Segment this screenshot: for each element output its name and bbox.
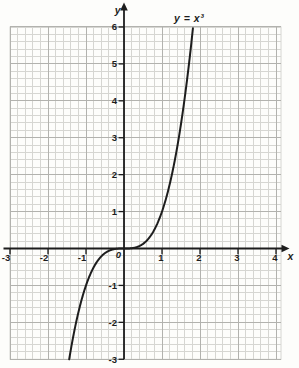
minor-gridlines: [10, 27, 281, 359]
y-tick-label: 2: [112, 169, 117, 180]
x-tick-label: -1: [78, 252, 86, 263]
y-axis-letter: y: [115, 4, 121, 16]
plot-canvas: [0, 0, 299, 368]
y-tick-label: 3: [112, 132, 117, 143]
y-tick-label: 4: [112, 95, 117, 106]
x-tick-label: -3: [2, 252, 10, 263]
equation-label: y = x³: [174, 12, 204, 24]
axis-tick-marks: [10, 27, 276, 359]
major-gridlines: [10, 27, 281, 359]
y-tick-label: -3: [109, 354, 117, 365]
x-tick-label: 3: [234, 252, 239, 263]
y-tick-label: 5: [112, 58, 117, 69]
y-axis-arrowhead: [120, 3, 128, 11]
x-tick-label: 4: [272, 252, 277, 263]
curve-path: [69, 28, 193, 359]
y-tick-label: -2: [109, 317, 117, 328]
cubic-curve: [69, 28, 193, 359]
x-axis-letter: x: [288, 250, 294, 262]
y-tick-label: 1: [112, 206, 117, 217]
origin-label: 0: [116, 249, 121, 260]
graph-figure: y y = x³ x 0 -3-2-11234-3-2-1123456: [0, 0, 299, 368]
x-tick-label: -2: [40, 252, 48, 263]
y-tick-label: -1: [109, 280, 117, 291]
x-tick-label: 1: [158, 252, 163, 263]
grid-border: [10, 27, 281, 359]
y-tick-label: 6: [112, 21, 117, 32]
x-tick-label: 2: [196, 252, 201, 263]
